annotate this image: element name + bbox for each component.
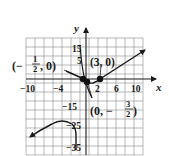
svg-text:, 0): , 0): [40, 59, 56, 73]
x-tick-label: 10: [131, 84, 141, 94]
point-y-intercept: [84, 79, 90, 85]
y-tick-label: −35: [66, 143, 81, 153]
x-tick-label: −4: [53, 84, 63, 94]
graph: x y −10 −4 2 6 10 15 5 −15 −25 −35 (− 1 …: [0, 0, 169, 156]
x-tick-label: 6: [114, 84, 119, 94]
annotation-y-intercept: (0, − 3 2 ): [90, 99, 137, 119]
svg-text:(0, −: (0, −: [90, 104, 113, 118]
svg-text:2: 2: [33, 64, 37, 74]
svg-text:(−: (−: [12, 59, 23, 73]
y-axis-label: y: [72, 22, 79, 34]
grid: [26, 38, 143, 155]
svg-text:2: 2: [126, 109, 130, 119]
y-tick-label: −15: [62, 102, 77, 112]
svg-text:): ): [133, 104, 137, 118]
svg-text:3: 3: [126, 99, 130, 109]
annotation-x-intercept-3: (3, 0): [90, 56, 115, 69]
x-tick-label: 2: [95, 84, 100, 94]
annotation-x-intercept-neg-half: (− 1 2 , 0): [12, 54, 56, 74]
svg-text:1: 1: [33, 54, 37, 64]
x-axis-label: x: [155, 81, 162, 93]
x-tick-label: −10: [20, 84, 35, 94]
